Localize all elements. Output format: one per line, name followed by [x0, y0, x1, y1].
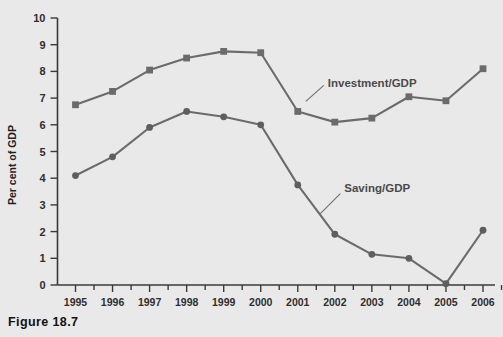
y-tick-label: 3: [39, 199, 45, 211]
data-point: [368, 115, 375, 122]
data-point: [183, 55, 190, 62]
y-tick-label: 7: [39, 92, 45, 104]
data-point: [368, 251, 375, 258]
data-point: [480, 227, 487, 234]
series-group: [72, 48, 486, 287]
data-point: [146, 67, 153, 74]
data-point: [480, 65, 487, 72]
annotation-label-saving: Saving/GDP: [344, 182, 410, 194]
x-tick-label: 2006: [471, 296, 495, 308]
x-tick-label: 1997: [138, 296, 162, 308]
y-tick-label: 2: [39, 226, 45, 238]
figure-container: 012345678910 199519961997199819992000200…: [0, 0, 503, 337]
x-tick-label: 2001: [286, 296, 310, 308]
x-tick-label: 1999: [212, 296, 236, 308]
y-tick-label: 4: [39, 172, 46, 184]
line-chart: 012345678910 199519961997199819992000200…: [0, 0, 503, 337]
x-tick-label: 2003: [360, 296, 384, 308]
x-tick-label: 1998: [175, 296, 199, 308]
x-tick-label: 1995: [64, 296, 88, 308]
data-point: [443, 280, 450, 287]
data-point: [72, 101, 79, 108]
data-point: [443, 97, 450, 104]
annotation-group: Investment/GDPSaving/GDP: [306, 77, 417, 213]
data-point: [406, 255, 413, 262]
data-point: [109, 153, 116, 160]
data-point: [109, 88, 116, 95]
y-tick-label: 8: [39, 65, 45, 77]
x-tick-label: 2005: [434, 296, 458, 308]
data-point: [183, 108, 190, 115]
annotation-leader-saving: [320, 194, 340, 214]
x-tick-label: 2004: [397, 296, 421, 308]
data-point: [257, 121, 264, 128]
y-tick-label: 10: [33, 12, 45, 24]
y-tick-label: 1: [39, 252, 45, 264]
data-point: [331, 231, 338, 238]
y-tick-label: 6: [39, 119, 45, 131]
figure-caption: Figure 18.7: [8, 315, 78, 329]
series-line-investment-gdp: [76, 51, 484, 122]
y-axis-label: Per cent of GDP: [6, 125, 18, 205]
data-point: [406, 93, 413, 100]
y-axis-ticks: 012345678910: [33, 12, 57, 291]
y-tick-label: 9: [39, 39, 45, 51]
x-tick-label: 1996: [101, 296, 125, 308]
y-tick-label: 5: [39, 146, 45, 158]
x-tick-label: 2000: [249, 296, 273, 308]
data-point: [220, 48, 227, 55]
data-point: [146, 124, 153, 131]
annotation-label-investment: Investment/GDP: [328, 77, 417, 89]
annotation-leader-investment: [306, 85, 324, 101]
data-point: [294, 181, 301, 188]
y-tick-label: 0: [39, 279, 45, 291]
x-axis-ticks: 1995199619971998199920002001200220032004…: [64, 285, 502, 308]
series-line-saving-gdp: [76, 111, 484, 283]
x-tick-label: 2002: [323, 296, 347, 308]
data-point: [220, 113, 227, 120]
data-point: [72, 172, 79, 179]
data-point: [257, 49, 264, 56]
data-point: [331, 119, 338, 126]
data-point: [294, 108, 301, 115]
